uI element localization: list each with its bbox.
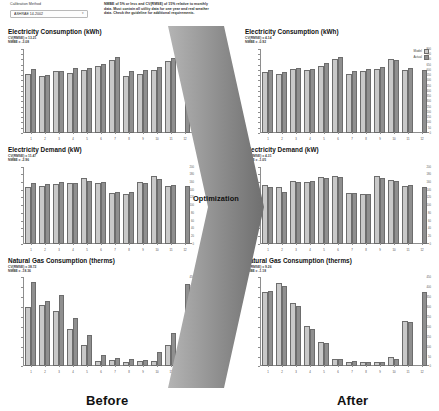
y-tick-mark <box>21 366 23 367</box>
calibration-method-label: Calibration Method <box>10 2 88 7</box>
x-tick-mark <box>366 243 367 245</box>
chart-panel-gas-consumption-before: Natural Gas Consumption (therms)CV(RMSE)… <box>8 257 194 376</box>
plot-inner <box>24 167 192 244</box>
plot-inner <box>261 49 429 133</box>
y-tick-mark <box>258 96 260 97</box>
plot-area: 0501001502002503003504004505005506006507… <box>245 47 431 142</box>
x-tick-label: 2 <box>44 370 46 374</box>
calibration-method-select[interactable]: ASHRAE 14-2002 ▾ <box>10 10 88 18</box>
bar-actual-4 <box>310 329 316 367</box>
y-tick-mark <box>21 75 23 76</box>
x-tick-mark <box>115 365 116 367</box>
x-tick-mark <box>282 243 283 245</box>
x-tick-mark <box>31 243 32 245</box>
x-tick-label: 11 <box>170 248 173 252</box>
top-control-bar: Calibration Method ASHRAE 14-2002 ▾ NMBE… <box>0 0 439 26</box>
y-tick-mark <box>258 317 260 318</box>
x-tick-mark <box>408 243 409 245</box>
chart-panel-elec-consumption-after: Electricity Consumption (kWh)CV(RMSE) = … <box>245 28 431 142</box>
x-tick-mark <box>408 132 409 134</box>
y-tick-mark <box>258 357 260 358</box>
x-tick-mark <box>422 132 423 134</box>
y-tick-mark <box>21 190 23 191</box>
x-tick-label: 8 <box>128 370 130 374</box>
y-tick-mark <box>258 122 260 123</box>
x-tick-mark <box>310 132 311 134</box>
y-tick-mark <box>21 101 23 102</box>
x-tick-label: 1 <box>30 248 32 252</box>
y-tick-mark <box>258 91 260 92</box>
chevron-down-icon: ▾ <box>82 12 84 15</box>
x-tick-mark <box>268 132 269 134</box>
y-tick-mark <box>21 54 23 55</box>
y-tick-mark <box>258 190 260 191</box>
x-tick-mark <box>45 132 46 134</box>
x-tick-mark <box>352 132 353 134</box>
x-tick-label: 12 <box>183 137 186 141</box>
x-tick-label: 5 <box>323 137 325 141</box>
bar-actual-5 <box>324 343 330 367</box>
y-tick-mark <box>21 122 23 123</box>
x-tick-label: 8 <box>365 137 367 141</box>
bar-actual-3 <box>59 295 65 366</box>
y-tick-mark <box>258 297 260 298</box>
y-tick-mark <box>21 86 23 87</box>
y-tick-mark <box>258 86 260 87</box>
bar-actual-10 <box>157 352 163 367</box>
x-tick-mark <box>171 243 172 245</box>
x-tick-mark <box>101 132 102 134</box>
x-tick-label: 4 <box>309 248 311 252</box>
x-tick-mark <box>143 243 144 245</box>
x-tick-label: 10 <box>155 248 158 252</box>
x-tick-mark <box>157 132 158 134</box>
y-tick-mark <box>21 236 23 237</box>
y-tick-mark <box>258 287 260 288</box>
bar-actual-4 <box>73 68 79 133</box>
x-tick-label: 4 <box>309 370 311 374</box>
x-tick-label: 9 <box>142 137 144 141</box>
y-tick-mark <box>21 112 23 113</box>
x-tick-label: 8 <box>128 248 130 252</box>
bar-actual-7 <box>352 71 358 132</box>
y-tick-mark <box>258 133 260 134</box>
y-tick-mark <box>21 174 23 175</box>
y-tick-mark <box>258 337 260 338</box>
bar-actual-10 <box>157 179 163 244</box>
y-tick-mark <box>21 317 23 318</box>
bar-actual-12 <box>422 70 428 133</box>
chart-title: Electricity Demand (kW) <box>245 146 431 154</box>
y-tick-mark <box>21 228 23 229</box>
bar-actual-2 <box>45 184 51 243</box>
nmbe-metric: NMBE = -0.92 <box>245 40 431 44</box>
y-tick-mark <box>21 65 23 66</box>
x-tick-label: 10 <box>392 248 395 252</box>
y-tick-mark <box>258 221 260 222</box>
x-tick-mark <box>171 132 172 134</box>
y-tick-mark <box>21 277 23 278</box>
x-tick-mark <box>268 243 269 245</box>
nmbe-metric: NMBE = -1.18 <box>245 269 431 273</box>
x-tick-mark <box>115 243 116 245</box>
y-tick-mark <box>21 221 23 222</box>
chart-title: Electricity Consumption (kWh) <box>245 28 431 36</box>
x-tick-mark <box>87 243 88 245</box>
y-tick-mark <box>21 357 23 358</box>
x-tick-mark <box>129 243 130 245</box>
y-tick-mark <box>258 277 260 278</box>
bar-actual-12 <box>185 186 191 244</box>
y-tick-mark <box>258 65 260 66</box>
bar-actual-3 <box>59 71 65 132</box>
y-tick-mark <box>258 54 260 55</box>
x-tick-label: 4 <box>72 248 74 252</box>
bar-actual-9 <box>380 67 386 133</box>
x-tick-label: 6 <box>337 248 339 252</box>
bar-actual-12 <box>185 284 191 366</box>
bar-actual-8 <box>366 194 372 244</box>
x-tick-mark <box>143 132 144 134</box>
y-tick-mark <box>258 327 260 328</box>
x-tick-label: 12 <box>420 370 423 374</box>
x-tick-label: 12 <box>420 137 423 141</box>
bar-actual-12 <box>422 187 428 244</box>
y-tick-mark <box>258 128 260 129</box>
bar-actual-9 <box>143 183 149 244</box>
